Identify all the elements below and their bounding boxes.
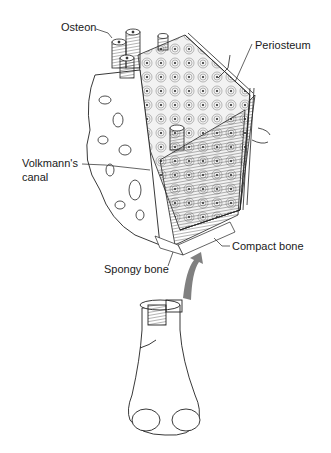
osteon-leader (96, 29, 112, 38)
periosteum-leader (235, 44, 252, 82)
bone-block (87, 29, 270, 245)
label-volkmanns-canal-line2: canal (22, 171, 48, 183)
label-compact-bone: Compact bone (232, 240, 304, 252)
femur-bone (128, 300, 200, 435)
label-periosteum: Periosteum (255, 39, 311, 51)
bone-diagram (0, 0, 331, 453)
direction-arrow (183, 252, 203, 300)
label-osteon: Osteon (61, 21, 96, 33)
label-volkmanns-canal-line1: Volkmann's (22, 157, 78, 169)
label-spongy-bone: Spongy bone (104, 263, 169, 275)
